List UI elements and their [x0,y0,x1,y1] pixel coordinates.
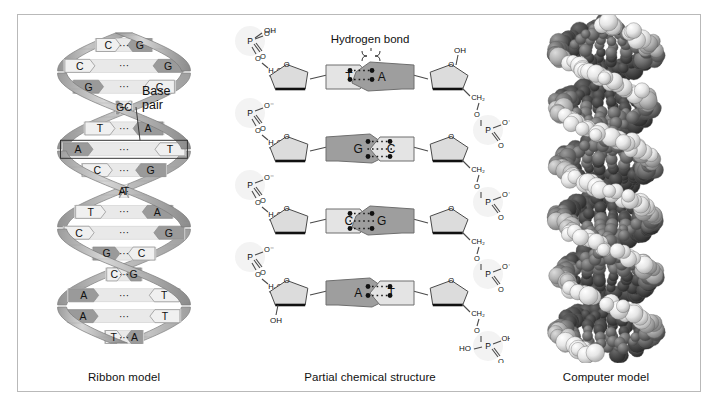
ribbon-base-letter: C [94,164,102,176]
nucleobase-letter: G [377,214,386,228]
ribbon-base-letter: A [80,289,87,301]
atom-label-methylene: CH₂ [471,165,485,174]
atom-label-methylene: CH₂ [471,237,485,246]
hydrogen-bond-endpoint [348,68,353,73]
hydrogen-bond-endpoint [366,154,371,159]
ribbon-base-letter: G [84,81,92,93]
base-pair-label-line2: pair [142,98,163,112]
atom-label-oxygen: O [255,126,261,135]
ribbon-base-letter: T [97,122,104,134]
atom-label-oxygen: O [260,124,266,133]
ribbon-base-letter: G [164,60,172,72]
ribbon-helix-svg: CG···CG···GC···GC···TA···AT···CG···AT···… [18,15,230,363]
hydrogen-bond-endpoint [348,77,353,82]
ribbon-base-letter: T [161,289,168,301]
base-pair-chemical: AT [310,278,428,307]
terminus-right-top: OH [454,46,466,65]
caption-computer-model: Computer model [510,371,702,383]
nucleobase-letter: A [378,70,386,84]
ribbon-base-letter: A [75,143,82,155]
atom-label-oxygen: O [255,54,261,63]
nucleotide-right: OCH₂OPOO⁻ [430,60,510,150]
ribbon-base-letter: A [145,122,152,134]
ribbon-base-letter: G [136,39,144,51]
atom-label-oxygen-anion: O⁻ [502,262,510,271]
atom-label-phosphorus: P [247,36,253,46]
atom-sphere [592,152,605,165]
atom-sphere [572,229,588,245]
ribbon-base-letter: A [80,310,87,322]
ribbon-hydrogen-bond-dots: ··· [119,290,129,301]
hydrogen-bond-endpoint [388,139,393,144]
ribbon-base-letter: T [87,206,94,218]
atom-sphere [593,275,606,288]
atom-label-oxygen: O [260,52,266,61]
ribbon-model-graphic: CG···CG···GC···GC···TA···AT···CG···AT···… [18,15,230,363]
atom-label-phosphorus: P [247,180,253,190]
hydrogen-bond-endpoint [348,211,353,216]
atom-label-oxygen: O [448,60,454,69]
atom-sphere [598,72,611,85]
chemical-structure-graphic: POO⁻OH₂COPOO⁻OH₂COPOO⁻OH₂COPOO⁻OH₂COOHOH… [230,15,510,363]
atom-sphere [622,189,635,202]
atom-sphere [586,343,604,361]
atom-label-oxygen: O [498,285,504,294]
nucleotide-left: POO⁻OH₂CO [247,173,308,233]
base-pair-chemical: GC [310,134,428,163]
atom-sphere [626,23,642,39]
ribbon-hydrogen-bond-dots: ··· [119,40,129,51]
hydrogen-bond-endpoint [370,226,375,231]
ribbon-hydrogen-bond-dots: ··· [119,144,129,155]
atom-label-oxygen: O [284,60,290,69]
atom-label-oxygen: O [260,196,266,205]
atom-label-hydroxyl: OH [270,316,282,325]
nucleobase-letter: A [354,286,362,300]
ribbon-hydrogen-bond-dots: ··· [119,81,129,92]
ribbon-hydrogen-bond-dots: ··· [119,102,129,113]
atom-label-oxygen: O [474,110,480,119]
hydrogen-bond-endpoint [366,139,371,144]
ribbon-hydrogen-bond-dots: ··· [119,248,129,259]
hydrogen-bond-label: Hydrogen bond [331,33,410,45]
atom-label-oxygen: O [498,357,504,363]
nucleotide-left: POO⁻OH₂CO [247,245,308,305]
atom-label-phosphorus: P [485,341,491,351]
ribbon-base-letter: G [130,268,138,280]
atom-label-oxygen: O [448,204,454,213]
ribbon-base-letter: A [154,206,161,218]
ribbon-base-letter: C [138,247,146,259]
atom-sphere [634,83,649,98]
atom-sphere [576,122,590,136]
ribbon-hydrogen-bond-dots: ··· [119,332,129,343]
ribbon-hydrogen-bond-dots: ··· [119,206,129,217]
atom-label-oxygen: O [260,268,266,277]
atom-sphere [603,184,616,197]
panel-chemical-structure: POO⁻OH₂COPOO⁻OH₂COPOO⁻OH₂COPOO⁻OH₂COOHOH… [230,15,510,393]
atom-sphere [581,30,590,39]
atom-label-oxygen: O [498,141,504,150]
hydrogen-bond-endpoint [370,211,375,216]
hydrogen-bond-endpoint [366,284,371,289]
ribbon-base-letter: G [165,227,173,239]
hydrogen-bond-endpoint [370,77,375,82]
atom-label-hydroxyl: OH [264,26,276,35]
atom-sphere [610,243,625,258]
ribbon-hydrogen-bond-dots: ··· [119,60,129,71]
ribbon-hydrogen-bond-dots: ··· [119,186,129,197]
atom-sphere [616,300,629,313]
atom-label-oxygen-anion: O⁻ [502,118,510,127]
ribbon-base-letter: C [104,39,112,51]
ribbon-hydrogen-bond-dots: ··· [119,269,129,280]
atom-label-oxygen: O [448,132,454,141]
atom-label-oxygen-anion: O⁻ [264,101,274,110]
ribbon-hydrogen-bond-dots: ··· [119,311,129,322]
atom-label-oxygen: O [474,182,480,191]
ribbon-base-letter: T [110,331,117,343]
atom-sphere [582,331,592,341]
atom-label-oxygen: O [474,326,480,335]
ribbon-base-letter: A [131,331,138,343]
panel-ribbon-model: CG···CG···GC···GC···TA···AT···CG···AT···… [18,15,230,393]
figure-frame: CG···CG···GC···GC···TA···AT···CG···AT···… [17,14,701,392]
atom-label-oxygen: O [284,132,290,141]
atom-label-oxygen: O [448,276,454,285]
